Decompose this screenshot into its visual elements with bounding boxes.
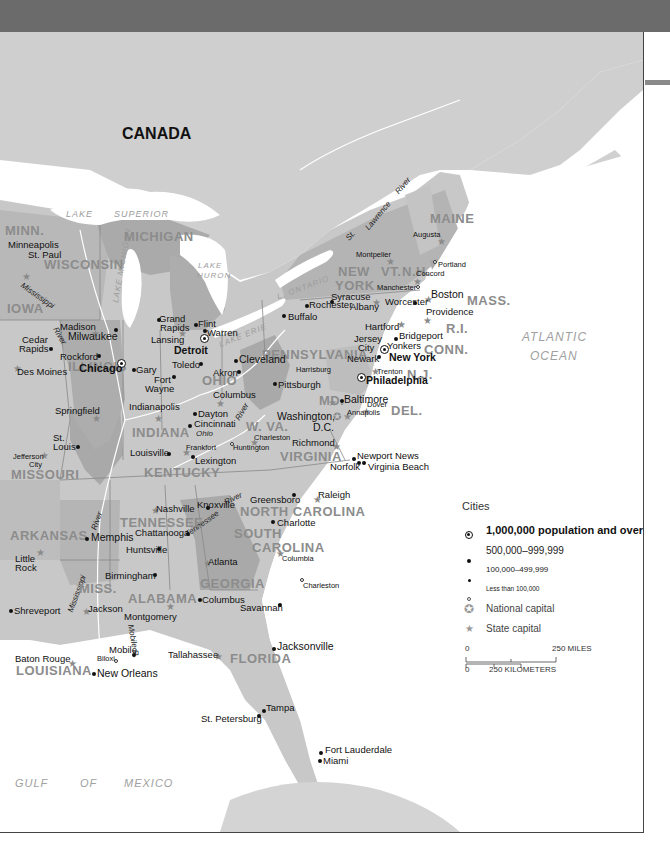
- lake-superior-label-1: LAKE: [66, 210, 93, 219]
- city-label: City: [29, 461, 42, 469]
- city-dot-icon: [193, 412, 197, 416]
- city-label: Fort Lauderdale: [325, 745, 392, 755]
- city-label: Frankfort: [186, 444, 216, 452]
- city-label: Louisville: [130, 448, 169, 458]
- state-label-indiana: INDIANA: [132, 426, 190, 439]
- state-label-florida: FLORIDA: [230, 652, 291, 665]
- city-label: Lexington: [195, 456, 236, 466]
- state-label-maine: MAINE: [430, 212, 474, 225]
- state-label-michigan: MICHIGAN: [124, 230, 194, 243]
- city-label: Augusta: [413, 231, 441, 239]
- city-label: Rapids: [19, 344, 49, 354]
- city-label: Pittsburgh: [278, 380, 321, 390]
- city-label: Rockford: [60, 352, 98, 362]
- city-label: Montpelier: [356, 251, 391, 259]
- state-label-missouri: MISSOURI: [11, 468, 79, 481]
- city-label: Huntsville: [126, 545, 167, 555]
- circle-dot-icon: [462, 525, 476, 543]
- city-label: Detroit: [174, 345, 208, 356]
- city-label: New Orleans: [97, 668, 158, 679]
- city-dot-icon: [76, 445, 80, 449]
- city-label: Worcester: [385, 297, 428, 307]
- gulf-label-1: GULF: [15, 778, 48, 789]
- city-label: Tampa: [266, 703, 295, 713]
- city-label: Concord: [416, 270, 444, 278]
- city-label: Bridgeport: [399, 331, 443, 341]
- city-label: Newport News: [357, 451, 419, 461]
- city-label: Shreveport: [14, 606, 60, 616]
- gulf-label-2: OF: [80, 778, 97, 789]
- legend-label: 100,000–499,999: [486, 565, 548, 574]
- map-frame: CANADA LAKE SUPERIOR LAKE MICHIGAN LAKE …: [0, 32, 644, 833]
- state-label-new-york-1: NEW: [338, 265, 370, 278]
- state-label-del: DEL.: [391, 404, 423, 417]
- city-label: Charlotte: [277, 518, 316, 528]
- atlantic-ocean-label-1: ATLANTIC: [522, 331, 587, 343]
- legend-label: National capital: [486, 603, 554, 614]
- city-small-icon: [433, 260, 437, 264]
- city-label: Harrisburg: [296, 366, 331, 374]
- city-label: Portland: [438, 261, 466, 269]
- city-label: Des Moines: [17, 367, 67, 377]
- state-capital-icon: ★: [328, 398, 337, 408]
- legend-label: 1,000,000 population and over: [486, 524, 643, 536]
- city-label: St. Paul: [28, 250, 61, 260]
- state-label-iowa: IOWA: [7, 302, 44, 315]
- city-label: Toledo: [172, 360, 200, 370]
- city-label: Birmingham: [105, 571, 156, 581]
- legend-label: Less than 100,000: [486, 585, 540, 592]
- state-label-ri: R.I.: [446, 322, 468, 335]
- city-label: Nashville: [156, 504, 195, 514]
- legend-label: State capital: [486, 623, 541, 634]
- city-dot-icon: [362, 461, 366, 465]
- state-label-minn: MINN.: [5, 224, 44, 237]
- city-dot-icon: [172, 375, 176, 379]
- city-label: Huntington: [233, 444, 269, 452]
- city-label: Providence: [426, 307, 474, 317]
- city-label: Jacksonville: [277, 641, 334, 652]
- city-label: Albany: [350, 302, 379, 312]
- city-label: Columbia: [282, 555, 314, 563]
- city-label: Miami: [323, 756, 348, 766]
- state-capital-icon: ★: [22, 272, 31, 282]
- city-label: Richmond: [292, 438, 335, 448]
- city-label: Newark: [347, 354, 379, 364]
- city-label: Warren: [207, 328, 238, 338]
- legend-title: Cities: [462, 500, 490, 512]
- state-label-south-carolina-2: CAROLINA: [252, 541, 325, 554]
- city-label: Jackson: [88, 604, 123, 614]
- city-dot-icon: [271, 520, 275, 524]
- state-label-miss: MISS.: [79, 582, 117, 595]
- city-dot-icon: [272, 647, 276, 651]
- state-capital-icon: ★: [36, 548, 45, 558]
- city-major-icon: [357, 373, 366, 382]
- country-label-canada: CANADA: [122, 126, 191, 142]
- legend-label: 500,000–999,999: [486, 545, 564, 556]
- city-label: Raleigh: [318, 490, 350, 500]
- city-label: Knoxville: [197, 500, 235, 510]
- state-capital-icon: ★: [154, 414, 163, 424]
- state-capital-icon: ★: [423, 316, 432, 326]
- city-label: Biloxi: [97, 655, 115, 663]
- city-dot-icon: [188, 424, 192, 428]
- state-label-georgia: GEORGIA: [200, 577, 265, 590]
- city-label: Rochester: [309, 300, 352, 310]
- city-label: Baton Rouge: [15, 654, 70, 664]
- city-label: Virginia Beach: [368, 462, 429, 472]
- city-dot-icon: [282, 314, 286, 318]
- city-dot-icon: [273, 382, 277, 386]
- city-label: Memphis: [91, 532, 134, 543]
- state-label-south-carolina-1: SOUTH: [234, 527, 282, 540]
- state-label-arkansas: ARKANSAS: [10, 529, 88, 542]
- city-dot-icon: [9, 609, 13, 613]
- city-label: Akron: [213, 368, 238, 378]
- city-label: Chicago: [79, 363, 122, 374]
- city-label: Tallahassee: [168, 650, 218, 660]
- gulf-label-3: MEXICO: [124, 778, 173, 789]
- scale-km-end: 250 KILOMETERS: [489, 666, 556, 674]
- city-label: Charleston: [303, 582, 339, 590]
- small-dot-icon: [462, 568, 476, 586]
- city-label: Wayne: [145, 384, 174, 394]
- city-label: New York: [389, 352, 436, 363]
- large-dot-icon: [462, 549, 476, 567]
